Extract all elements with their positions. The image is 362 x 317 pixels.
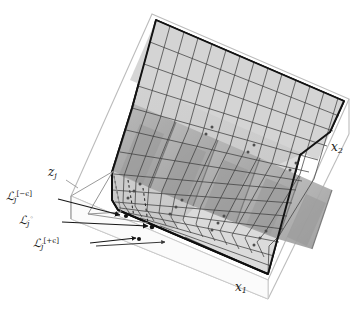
point-loss-minus (124, 214, 128, 218)
x2-axis-label-subscript: 2 (338, 145, 343, 155)
surface-plot-figure: ℒj[−ϵ] ℒj◦ ℒj[+ϵ] zj x1 x2 (0, 0, 362, 317)
loss-superscript-plus: [+ϵ] (43, 236, 59, 245)
loss-superscript-nominal: ◦ (29, 213, 33, 222)
z-axis-label: zj (48, 166, 57, 179)
loss-superscript-minus: [−ϵ] (16, 189, 32, 198)
loss-symbol-nominal: ℒ (19, 213, 27, 227)
loss-label-minus-epsilon: ℒj[−ϵ] (6, 190, 32, 204)
x1-axis-label-subscript: 1 (242, 285, 247, 295)
x2-axis-label-text: x (331, 140, 338, 154)
x1-axis-label-text: x (235, 280, 242, 294)
z-axis-label-subscript: j (54, 170, 57, 180)
loss-symbol-plus: ℒ (33, 236, 41, 250)
loss-label-plus-epsilon: ℒj[+ϵ] (33, 237, 59, 251)
surface-plot-canvas (0, 0, 362, 317)
x1-axis-label: x1 (235, 281, 247, 294)
loss-label-nominal: ℒj◦ (19, 214, 34, 228)
loss-symbol-minus: ℒ (6, 189, 14, 203)
point-loss-plus (137, 237, 141, 241)
x2-axis-label: x2 (331, 141, 343, 154)
point-loss-nominal (150, 225, 155, 230)
